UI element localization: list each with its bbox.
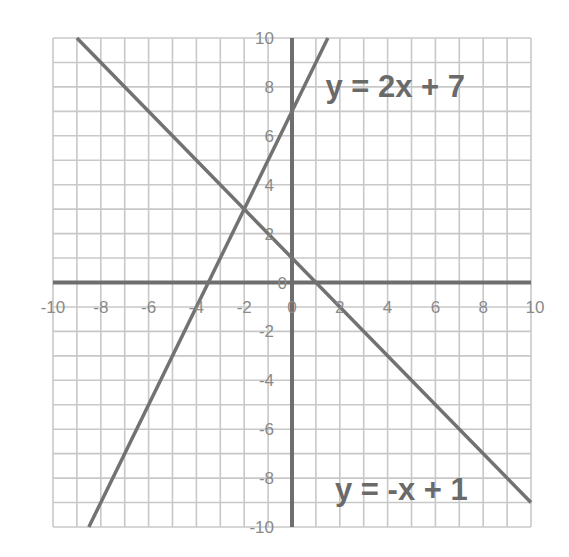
- equation-label: y = -x + 1: [335, 472, 468, 507]
- x-tick-label: 8: [478, 298, 487, 317]
- y-tick-label: -10: [249, 518, 274, 537]
- x-tick-label: -6: [141, 298, 156, 317]
- y-tick-label: 2: [265, 225, 274, 244]
- y-tick-label: 6: [265, 127, 274, 146]
- x-tick-label: -10: [41, 298, 66, 317]
- y-tick-label: 8: [265, 78, 274, 97]
- x-tick-label: 10: [526, 298, 545, 317]
- equation-label: y = 2x + 7: [325, 69, 465, 104]
- line-series-1: [77, 38, 531, 503]
- x-tick-label: -4: [189, 298, 204, 317]
- y-tick-label: -2: [259, 322, 274, 341]
- equation-labels: y = 2x + 7y = -x + 1: [325, 69, 467, 507]
- x-tick-label: 2: [335, 298, 344, 317]
- x-tick-label: -2: [237, 298, 252, 317]
- y-tick-label: 0: [278, 274, 287, 293]
- y-tick-label: -6: [259, 420, 274, 439]
- y-tick-label: 10: [255, 29, 274, 48]
- x-tick-label: 6: [431, 298, 440, 317]
- coordinate-plane: -10-8-6-4-20246810-10-8-6-4-20246810 y =…: [0, 0, 569, 557]
- y-tick-label: -8: [259, 469, 274, 488]
- x-tick-label: -8: [93, 298, 108, 317]
- y-tick-label: 4: [265, 176, 274, 195]
- x-tick-label: 0: [287, 298, 296, 317]
- x-tick-label: 4: [383, 298, 392, 317]
- y-tick-label: -4: [259, 371, 274, 390]
